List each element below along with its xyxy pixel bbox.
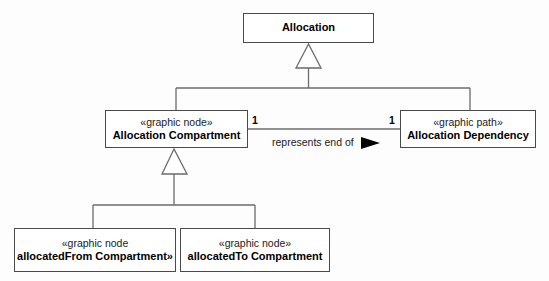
association-label: represents end of [272, 136, 354, 148]
solid-triangle-right-icon [361, 137, 380, 149]
class-name-label: allocatedFrom Compartment» [17, 250, 173, 263]
class-box-allocated-to-compartment[interactable]: «graphic node» allocatedTo Compartment [180, 228, 330, 272]
multiplicity-source: 1 [252, 114, 258, 126]
generalization-to-allocation-compartment [93, 149, 255, 228]
class-stereotype-label: «graphic node» [219, 237, 291, 250]
hollow-triangle-up-icon [296, 44, 321, 68]
generalization-to-allocation [176, 44, 470, 110]
class-stereotype-label: «graphic node [62, 237, 129, 250]
class-box-allocated-from-compartment[interactable]: «graphic node allocatedFrom Compartment» [14, 228, 176, 272]
class-stereotype-label: «graphic path» [433, 116, 502, 129]
class-name-label: Allocation Dependency [407, 129, 529, 142]
uml-class-diagram: Allocation «graphic node» Allocation Com… [0, 0, 549, 281]
hollow-triangle-up-icon [162, 149, 187, 174]
class-box-allocation-dependency[interactable]: «graphic path» Allocation Dependency [400, 110, 536, 148]
multiplicity-target: 1 [389, 114, 395, 126]
class-box-allocation[interactable]: Allocation [243, 13, 374, 43]
class-stereotype-label: «graphic node» [140, 116, 212, 129]
class-box-allocation-compartment[interactable]: «graphic node» Allocation Compartment [105, 110, 248, 148]
class-name-label: Allocation Compartment [113, 129, 241, 142]
class-name-label: allocatedTo Compartment [188, 250, 323, 263]
class-name-label: Allocation [282, 21, 335, 34]
